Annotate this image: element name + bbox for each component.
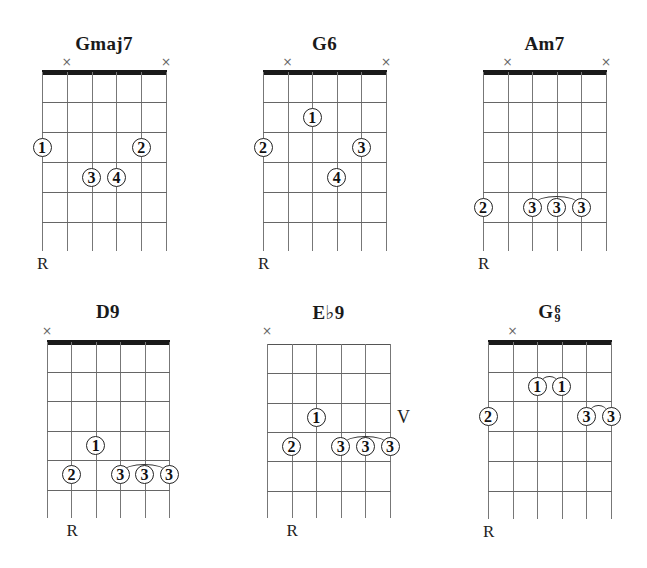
- finger-dot: 3: [82, 168, 101, 187]
- finger-dot: 1: [303, 108, 322, 127]
- chord-title: G6: [243, 33, 406, 55]
- fret-line: [47, 460, 170, 461]
- finger-dot: 1: [528, 377, 547, 396]
- fret-line: [488, 401, 612, 402]
- fret-line: [488, 431, 612, 432]
- string-line: [71, 342, 72, 518]
- finger-dot: 3: [135, 465, 154, 484]
- nut-bar: [263, 70, 387, 75]
- fret-line: [263, 102, 387, 103]
- finger-dot: 3: [572, 198, 591, 217]
- finger-dot: 2: [474, 198, 493, 217]
- nut-bar: [47, 340, 170, 345]
- finger-dot: 1: [33, 138, 52, 157]
- fret-line: [267, 373, 391, 374]
- fret-line: [263, 222, 387, 223]
- fret-line: [42, 102, 167, 103]
- muted-string-x-icon: ×: [261, 325, 273, 337]
- fret-line: [483, 102, 607, 103]
- fret-line: [47, 401, 170, 402]
- finger-dot: 1: [86, 436, 105, 455]
- fret-line: [483, 222, 607, 223]
- string-line: [120, 342, 121, 518]
- fret-line: [42, 132, 167, 133]
- finger-dot: 3: [160, 465, 179, 484]
- fret-line: [483, 162, 607, 163]
- top-fret-line: [267, 344, 391, 345]
- root-label: R: [37, 254, 48, 274]
- finger-dot: 2: [62, 465, 81, 484]
- finger-dot: 3: [352, 138, 371, 157]
- muted-string-x-icon: ×: [41, 325, 53, 337]
- root-label: R: [66, 521, 77, 541]
- finger-dot: 3: [577, 407, 596, 426]
- fret-line: [42, 162, 167, 163]
- finger-dot: 1: [307, 408, 326, 427]
- chord-name: D9: [96, 301, 120, 322]
- fret-line: [47, 431, 170, 432]
- fret-position-label: V: [397, 407, 410, 428]
- root-label: R: [478, 254, 489, 274]
- finger-dot: 3: [602, 407, 621, 426]
- string-line: [145, 342, 146, 518]
- chord-title: Am7: [463, 33, 626, 55]
- finger-dot: 2: [479, 407, 498, 426]
- fret-line: [263, 162, 387, 163]
- chord-name: E♭9: [312, 302, 344, 323]
- fret-line: [263, 132, 387, 133]
- finger-dot: 2: [254, 138, 273, 157]
- chord-title: G69: [468, 301, 631, 323]
- finger-dot: 3: [356, 437, 375, 456]
- muted-string-x-icon: ×: [507, 325, 519, 337]
- fret-line: [267, 432, 391, 433]
- finger-dot: 4: [327, 168, 346, 187]
- finger-dot: 3: [381, 437, 400, 456]
- nut-bar: [483, 70, 607, 75]
- finger-dot: 3: [111, 465, 130, 484]
- chord-name: Gmaj7: [75, 33, 132, 54]
- muted-string-x-icon: ×: [600, 56, 612, 68]
- fret-line: [267, 403, 391, 404]
- muted-string-x-icon: ×: [380, 56, 392, 68]
- muted-string-x-icon: ×: [502, 56, 514, 68]
- chord-name: Am7: [525, 33, 565, 54]
- string-line: [47, 342, 48, 518]
- chord-title: D9: [27, 301, 189, 323]
- chord-name: G: [538, 301, 553, 322]
- chord-name: G6: [312, 33, 337, 54]
- nut-bar: [42, 70, 167, 75]
- finger-dot: 3: [547, 198, 566, 217]
- fret-line: [488, 372, 612, 373]
- string-line: [169, 342, 170, 518]
- root-label: R: [483, 522, 494, 542]
- muted-string-x-icon: ×: [282, 56, 294, 68]
- chord-title: E♭9: [247, 301, 410, 324]
- fret-line: [263, 192, 387, 193]
- finger-dot: 3: [523, 198, 542, 217]
- fret-line: [42, 192, 167, 193]
- chord-title: Gmaj7: [22, 33, 186, 55]
- finger-dot: 1: [552, 377, 571, 396]
- fret-line: [267, 491, 391, 492]
- chord-extension: 69: [554, 305, 560, 323]
- fret-line: [483, 192, 607, 193]
- fret-line: [488, 491, 612, 492]
- fret-line: [47, 372, 170, 373]
- finger-dot: 2: [282, 437, 301, 456]
- root-label: R: [258, 254, 269, 274]
- finger-dot: 3: [331, 437, 350, 456]
- fret-line: [47, 490, 170, 491]
- muted-string-x-icon: ×: [160, 56, 172, 68]
- finger-dot: 2: [132, 138, 151, 157]
- fret-line: [483, 132, 607, 133]
- fret-line: [267, 461, 391, 462]
- muted-string-x-icon: ×: [61, 56, 73, 68]
- root-label: R: [287, 521, 298, 541]
- finger-dot: 4: [107, 168, 126, 187]
- string-line: [96, 342, 97, 518]
- fret-line: [42, 222, 167, 223]
- nut-bar: [488, 340, 612, 345]
- fret-line: [488, 461, 612, 462]
